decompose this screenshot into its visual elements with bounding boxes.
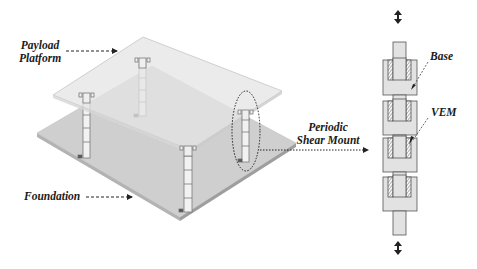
- base-label: Base: [430, 50, 453, 63]
- payload-platform-label-line2: Platform: [14, 52, 66, 65]
- double-arrow-top-icon: [394, 10, 402, 24]
- periodic-shear-mount-label-line1: Periodic: [296, 121, 360, 134]
- unit-cell-3: [383, 135, 417, 172]
- payload-platform-label: Payload Platform: [14, 39, 66, 65]
- unit-cell-1: [383, 58, 417, 95]
- unit-cell-2: [383, 95, 417, 135]
- double-arrow-bottom-icon: [394, 241, 402, 255]
- periodic-shear-mount-label-line2: Shear Mount: [296, 134, 360, 147]
- unit-cell-4: [383, 172, 417, 211]
- vem-label: VEM: [431, 106, 457, 119]
- periodic-shear-mount-detail: [383, 10, 417, 255]
- payload-platform-label-line1: Payload: [14, 39, 66, 52]
- foundation-label: Foundation: [24, 190, 80, 203]
- periodic-shear-mount-label: Periodic Shear Mount: [296, 121, 360, 147]
- shear-mount-diagram: [0, 0, 477, 269]
